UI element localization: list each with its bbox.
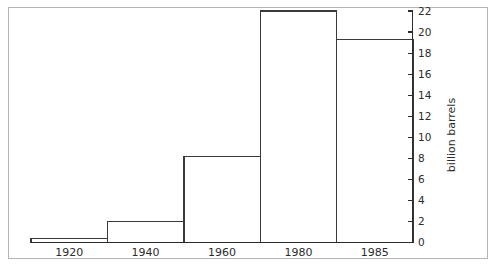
y-axis-tick-label: 14 — [418, 89, 432, 101]
bar — [260, 11, 336, 243]
bar — [337, 39, 413, 242]
y-axis-tick-label: 4 — [418, 194, 425, 206]
x-axis-tick-label: 1960 — [208, 246, 236, 259]
y-axis-tick-label: 6 — [418, 173, 425, 185]
y-axis-title: billion barrels — [445, 98, 458, 173]
bar — [107, 222, 183, 243]
y-axis-ticks: 0246810121416182022 — [408, 5, 432, 249]
bar — [184, 156, 260, 242]
y-axis-tick-label: 0 — [418, 236, 425, 248]
y-axis-tick-label: 12 — [418, 110, 431, 122]
chart-figure: 0246810121416182022 19201940196019801985… — [0, 0, 497, 266]
bar-series — [31, 11, 413, 243]
x-axis-tick-label: 1980 — [284, 246, 312, 259]
y-axis-tick-label: 16 — [418, 68, 432, 80]
x-axis-tick-label: 1985 — [361, 246, 389, 259]
x-axis-tick-label: 1920 — [55, 246, 83, 259]
bar-chart-plot: 0246810121416182022 19201940196019801985… — [0, 0, 497, 266]
y-axis-tick-label: 18 — [418, 47, 431, 59]
y-axis-tick-label: 10 — [418, 131, 431, 143]
x-axis-tick-label: 1940 — [132, 246, 160, 259]
y-axis-tick-label: 20 — [418, 26, 431, 38]
x-axis-ticks: 19201940196019801985 — [55, 246, 389, 259]
y-axis-tick-label: 8 — [418, 152, 425, 164]
y-axis-tick-label: 22 — [418, 5, 431, 17]
y-axis-tick-label: 2 — [418, 215, 425, 227]
